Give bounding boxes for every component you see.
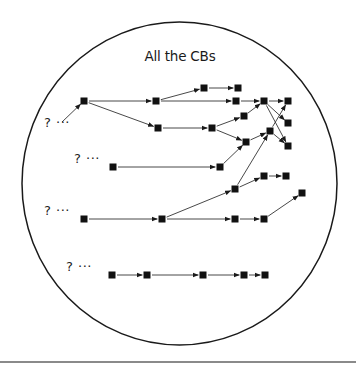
cb-node-n23 xyxy=(261,216,268,223)
edge-arrow xyxy=(268,196,298,217)
cb-node-n2 xyxy=(153,98,160,105)
cb-node-n20 xyxy=(261,173,268,180)
cb-node-n27 xyxy=(200,272,207,279)
cb-node-n12 xyxy=(267,128,274,135)
cb-node-n21 xyxy=(283,173,290,180)
cb-set-boundary-circle xyxy=(22,22,337,345)
cb-node-n17 xyxy=(81,216,88,223)
cb-node-n8 xyxy=(285,98,292,105)
unknown-origin-label: ? ··· xyxy=(66,259,92,274)
cb-node-n29 xyxy=(262,272,269,279)
diagram-title: All the CBs xyxy=(0,48,356,64)
edges-group xyxy=(62,88,298,275)
edge-arrow xyxy=(224,145,243,163)
cb-node-n13 xyxy=(285,120,292,127)
cb-node-n14 xyxy=(285,143,292,150)
cb-node-n18 xyxy=(159,216,166,223)
cb-node-n7 xyxy=(261,98,268,105)
unknown-origin-label: ? ··· xyxy=(44,203,70,218)
cb-node-n3 xyxy=(155,125,162,132)
unknown-origin-label: ? ··· xyxy=(74,151,100,166)
cb-node-n6 xyxy=(233,98,240,105)
edge-arrow xyxy=(217,118,240,127)
edge-arrow xyxy=(273,105,286,127)
cb-node-n26 xyxy=(144,272,151,279)
edge-arrow xyxy=(251,133,266,140)
diagram-title-text: All the CBs xyxy=(145,48,216,64)
cb-node-n10 xyxy=(241,113,248,120)
edge-arrow xyxy=(167,191,231,217)
edge-arrow xyxy=(248,104,260,113)
cb-node-n22 xyxy=(232,216,239,223)
cb-node-n19 xyxy=(232,186,239,193)
edge-arrow xyxy=(240,178,260,187)
cb-node-n28 xyxy=(241,272,248,279)
edge-arrow xyxy=(217,130,242,140)
cb-node-n5 xyxy=(235,85,242,92)
cb-node-n9 xyxy=(209,125,216,132)
cb-node-n11 xyxy=(243,139,250,146)
cb-node-n16 xyxy=(217,164,224,171)
nodes-group xyxy=(81,85,306,279)
edge-arrow xyxy=(161,89,200,100)
cb-node-n4 xyxy=(201,85,208,92)
bottom-divider xyxy=(0,361,356,363)
cb-node-n15 xyxy=(110,164,117,171)
cb-node-n1 xyxy=(81,98,88,105)
cb-node-n25 xyxy=(109,272,116,279)
unknown-origin-label: ? ··· xyxy=(44,115,70,130)
edge-arrow xyxy=(89,103,154,127)
cb-node-n24 xyxy=(299,190,306,197)
